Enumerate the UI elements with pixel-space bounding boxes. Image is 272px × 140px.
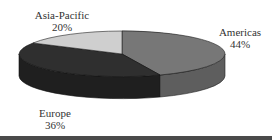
label-americas-name: Americas — [210, 26, 270, 38]
label-europe: Europe 36% — [30, 107, 80, 131]
label-americas: Americas 44% — [210, 26, 270, 50]
label-asia-pacific-pct: 20% — [22, 21, 102, 33]
label-europe-pct: 36% — [30, 119, 80, 131]
label-asia-pacific: Asia-Pacific 20% — [22, 9, 102, 33]
bottom-border — [0, 136, 272, 140]
label-americas-pct: 44% — [210, 38, 270, 50]
label-asia-pacific-name: Asia-Pacific — [22, 9, 102, 21]
label-europe-name: Europe — [30, 107, 80, 119]
